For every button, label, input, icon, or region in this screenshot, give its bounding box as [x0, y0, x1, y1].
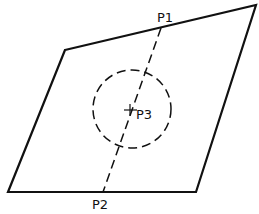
diagram-svg: P1 P2 P3 [0, 0, 259, 214]
label-p3: P3 [136, 107, 152, 122]
label-p2: P2 [92, 197, 108, 212]
plane-quadrilateral [8, 5, 256, 192]
diagram-canvas: P1 P2 P3 [0, 0, 259, 214]
label-p1: P1 [157, 10, 173, 25]
